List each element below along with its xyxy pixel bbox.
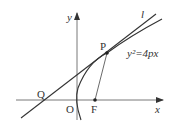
parabola-equation-label: y²=4px bbox=[126, 47, 159, 59]
point-p-label: P bbox=[100, 40, 106, 52]
point-q-label: Q bbox=[37, 88, 45, 100]
tangent-line bbox=[21, 14, 156, 118]
parabola-diagram: y x O F P Q l y²=4px bbox=[0, 0, 177, 132]
parabola-curve bbox=[77, 19, 162, 120]
tangent-line-label: l bbox=[141, 8, 144, 20]
origin-label: O bbox=[66, 103, 74, 115]
y-axis-label: y bbox=[66, 11, 72, 23]
focus-label: F bbox=[91, 103, 97, 115]
point-f-dot bbox=[93, 98, 97, 102]
x-axis-label: x bbox=[154, 103, 160, 115]
